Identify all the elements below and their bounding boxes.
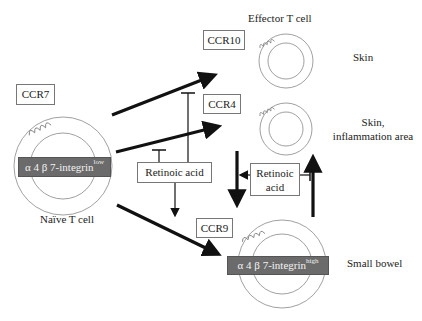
target-skin-inflammation-label: Skin, inflammation area [328, 115, 418, 143]
effector-cell-ccr4 [259, 103, 312, 155]
target-skin-label: Skin [353, 50, 373, 64]
retinoic-acid-box-right: Retinoic acid [250, 163, 300, 196]
effector-cell-ccr10 [259, 34, 313, 88]
target-skin-inflammation-line2: inflammation area [328, 129, 418, 143]
target-skin-inflammation-line1: Skin, [328, 115, 418, 129]
receptor-box-ccr10: CCR10 [203, 30, 245, 50]
receptor-box-ccr4: CCR4 [203, 94, 241, 114]
retinoic-acid-right-line2: acid [251, 180, 299, 194]
integrin-low-text: α 4 β 7-integrin [25, 161, 94, 173]
arrow-naive-to-ccr10 [112, 76, 212, 115]
target-small-bowel-label: Small bowel [347, 256, 402, 270]
arrow-naive-to-ccr4 [116, 127, 216, 152]
receptor-box-ccr7: CCR7 [16, 84, 55, 105]
naive-t-cell-label: Naïve T cell [40, 212, 94, 226]
integrin-high-text: α 4 β 7-integrin [238, 259, 307, 271]
receptor-coil-icon [259, 39, 275, 48]
retinoic-acid-right-line1: Retinoic [251, 166, 299, 180]
integrin-bar-low: α 4 β 7-integrinlow [18, 157, 111, 177]
receptor-box-ccr9: CCR9 [196, 218, 233, 238]
integrin-high-level: high [306, 257, 318, 265]
effector-t-cell-heading: Effector T cell [248, 11, 312, 25]
retinoic-acid-box-left: Retinoic acid [137, 162, 212, 183]
integrin-low-level: low [94, 158, 105, 166]
integrin-bar-high: α 4 β 7-integrinhigh [227, 256, 329, 275]
